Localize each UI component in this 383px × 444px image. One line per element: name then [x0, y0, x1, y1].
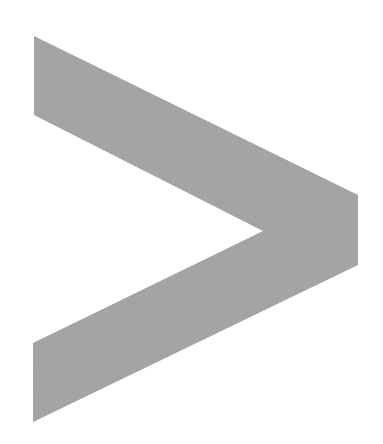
image-canvas: > [0, 0, 383, 444]
chevron-right-icon [0, 0, 383, 444]
chevron-shape [33, 36, 358, 422]
